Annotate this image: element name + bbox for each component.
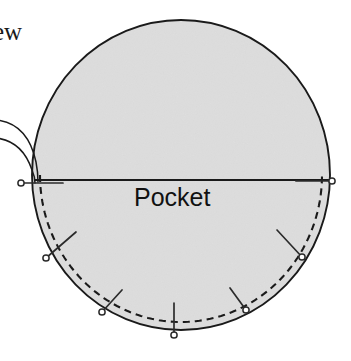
partial-view-label: ew (0, 18, 22, 46)
pin-lower-left-head (43, 255, 49, 261)
pin-lower-right-head (299, 254, 305, 260)
pin-bottom-right-head (243, 307, 249, 313)
pin-bottom-left-head (99, 309, 105, 315)
pin-bottom-center-head (171, 332, 177, 338)
pin-right-edge-head (329, 178, 335, 184)
pin-left-edge-head (18, 180, 24, 186)
pattern-diagram-canvas: ew Pocket (0, 0, 351, 361)
pocket-label: Pocket (134, 183, 210, 212)
diagram-svg (0, 0, 351, 361)
